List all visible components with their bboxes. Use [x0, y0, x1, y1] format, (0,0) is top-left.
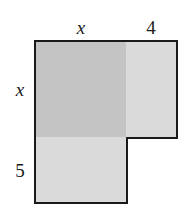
label-top-x: x: [77, 18, 85, 37]
label-left-x: x: [16, 80, 24, 99]
area-model-diagram: x 4 x 5: [0, 0, 188, 215]
label-left-5: 5: [15, 161, 25, 180]
rectangle-x-by-5: [34, 137, 128, 204]
square-x-by-x: [34, 40, 128, 139]
rectangle-4-by-x: [126, 40, 178, 139]
label-top-4: 4: [146, 18, 156, 37]
